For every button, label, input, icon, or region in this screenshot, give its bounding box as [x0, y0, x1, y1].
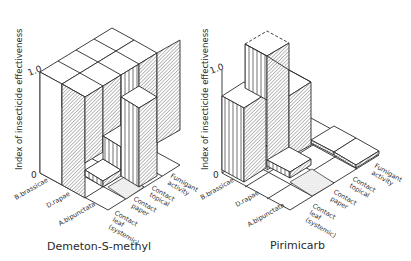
x-label-a-bipunctata: A.bipunctata [246, 201, 286, 229]
figure: 1.0 0 Index of insecticide effectiveness [0, 0, 411, 261]
chart-title-right: Pirimicarb [270, 239, 325, 252]
y-axis-label: Index of insecticide effectiveness [200, 28, 210, 170]
x-label-d-rapae: D.rapae [234, 189, 260, 209]
x-label-a-bipunctata: A.bipunctata [57, 200, 97, 228]
chart-demeton-s-methyl: 1.0 0 Index of insecticide effectiveness [13, 28, 200, 253]
y-axis-label: Index of insecticide effectiveness [14, 28, 24, 170]
y-tick-zero: 0 [213, 170, 219, 180]
bar-b-brassicae-leaf [222, 82, 266, 182]
y-tick-top: 1.0 [208, 61, 225, 75]
fumigant-end-face [157, 40, 180, 143]
x-label-d-rapae: D.rapae [45, 190, 71, 210]
chart-title-left: Demeton-S-methyl [47, 240, 151, 253]
y-tick-zero: 0 [31, 170, 37, 180]
chart-pirimicarb: 1.0 0 Index of insecticide effectiveness [199, 28, 404, 252]
